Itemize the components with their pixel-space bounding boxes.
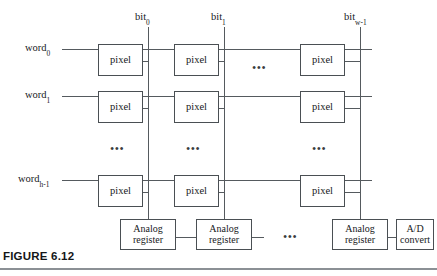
pixel-bit-stub-r0-c2 — [345, 61, 361, 62]
analog-register-w-1: Analog register — [332, 219, 388, 250]
row-label-word0: word0 — [25, 42, 50, 53]
pixel-cell-r1-c2: pixel — [300, 91, 345, 123]
bit-line-w-1 — [360, 27, 361, 219]
row-label-word1: word1 — [25, 89, 50, 100]
pixel-bit-stub-r0-c1 — [219, 61, 225, 62]
ad-converter: A/D convert — [396, 219, 434, 250]
register-output-1 — [252, 237, 264, 238]
pixel-cell-rh1-c0: pixel — [98, 175, 143, 207]
analog-register-1: Analog register — [196, 219, 252, 250]
pixel-cell-r0-c1: pixel — [174, 44, 219, 76]
pixel-cell-rh1-c2: pixel — [300, 175, 345, 207]
row-0-ellipsis: ••• — [252, 62, 266, 74]
pixel-cell-rh1-c1: pixel — [174, 175, 219, 207]
column-1-ellipsis: ••• — [186, 143, 200, 155]
pixel-cell-r0-c2: pixel — [300, 44, 345, 76]
register-link-0-1 — [176, 237, 196, 238]
pixel-bit-stub-rh1-c0 — [143, 192, 149, 193]
caption-rule — [0, 268, 437, 270]
bit-line-0 — [148, 27, 149, 219]
register-link-w1-adc — [388, 237, 396, 238]
column-label-bit0: bit0 — [135, 11, 150, 22]
analog-register-0: Analog register — [120, 219, 176, 250]
pixel-cell-r1-c1: pixel — [174, 91, 219, 123]
pixel-bit-stub-rh1-c1 — [219, 192, 225, 193]
pixel-bit-stub-rh1-c2 — [345, 192, 361, 193]
pixel-cell-r1-c0: pixel — [98, 91, 143, 123]
pixel-cell-r0-c0: pixel — [98, 44, 143, 76]
pixel-bit-stub-r0-c0 — [143, 61, 149, 62]
column-label-bit-w-1: bitw-1 — [344, 11, 367, 22]
column-0-ellipsis: ••• — [110, 143, 124, 155]
pixel-bit-stub-r1-c1 — [219, 108, 225, 109]
figure-caption: FIGURE 6.12 — [3, 250, 74, 262]
figure-6-12: bit0 bit1 bitw-1 word0 word1 wordh-1 pix… — [0, 0, 437, 276]
row-label-word-h-1: wordh-1 — [18, 173, 49, 184]
register-row-ellipsis: ••• — [283, 231, 297, 243]
column-2-ellipsis: ••• — [312, 143, 326, 155]
pixel-bit-stub-r1-c2 — [345, 108, 361, 109]
bit-line-1 — [224, 27, 225, 219]
column-label-bit1: bit1 — [211, 11, 226, 22]
pixel-bit-stub-r1-c0 — [143, 108, 149, 109]
